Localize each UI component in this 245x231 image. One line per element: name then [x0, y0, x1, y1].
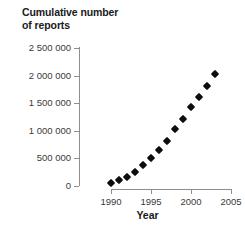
x-axis-tick-label: 1995 [136, 196, 166, 207]
x-axis-tick-label: 2000 [176, 196, 206, 207]
x-axis-tick [111, 189, 112, 194]
plot-area: 0500 0001 000 0001 500 0002 000 0002 500… [0, 0, 245, 231]
chart-container: Cumulative number of reports 0500 0001 0… [0, 0, 245, 231]
y-axis-tick-label: 2 500 000 [29, 43, 71, 53]
data-point [155, 146, 163, 154]
data-point [211, 70, 219, 78]
data-point [131, 168, 139, 176]
y-axis-tick [74, 76, 79, 77]
x-axis-spine [111, 189, 231, 190]
data-point [187, 103, 195, 111]
y-axis-tick-label: 0 [66, 181, 71, 191]
y-axis-tick-label: 1 000 000 [29, 126, 71, 136]
data-point [203, 81, 211, 89]
x-axis-tick [231, 189, 232, 194]
x-axis-title-label: Year [136, 209, 158, 221]
y-axis-tick [74, 131, 79, 132]
y-axis-tick-label: 2 000 000 [29, 71, 71, 81]
data-point [163, 136, 171, 144]
data-point [123, 173, 131, 181]
y-axis-tick [74, 158, 79, 159]
data-point [171, 125, 179, 133]
y-axis-tick [74, 103, 79, 104]
data-point [147, 154, 155, 162]
data-point [179, 115, 187, 123]
x-axis-tick [191, 189, 192, 194]
y-axis-tick-label: 1 500 000 [29, 98, 71, 108]
y-axis-tick [74, 48, 79, 49]
y-axis-tick-label: 500 000 [37, 153, 71, 163]
y-axis-tick [74, 186, 79, 187]
y-axis-spine [79, 47, 80, 186]
x-axis-tick-label: 1990 [96, 196, 126, 207]
x-axis-tick-label: 2005 [216, 196, 245, 207]
data-point [195, 93, 203, 101]
x-axis-title: Year [0, 209, 245, 221]
data-point [139, 161, 147, 169]
x-axis-tick [151, 189, 152, 194]
